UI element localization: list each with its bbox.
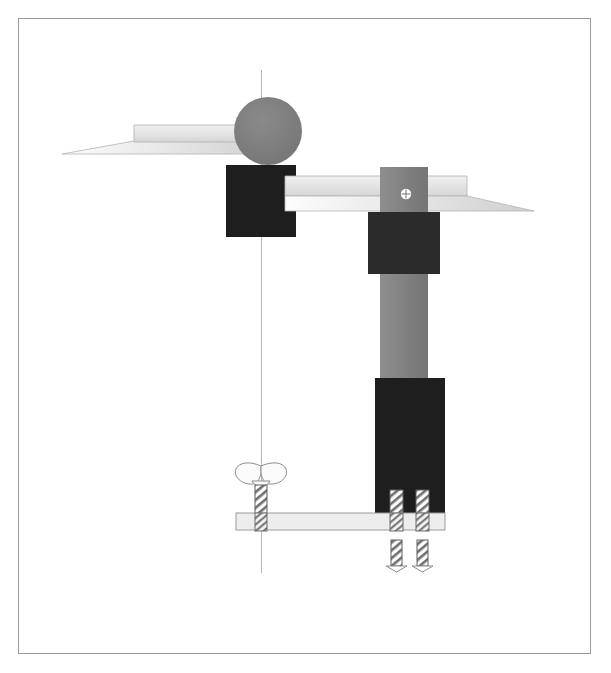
artwork-canvas (0, 0, 611, 673)
phillips-screw-head (401, 189, 411, 199)
composition-svg (0, 0, 611, 673)
artboard (0, 0, 611, 673)
right-blade-body (285, 176, 467, 196)
background (0, 0, 611, 673)
screw-left-through-plate (390, 513, 403, 531)
screw-right-through-plate (416, 513, 429, 531)
upper-dark-block (368, 212, 440, 274)
lower-dark-block (375, 378, 445, 520)
right-column (380, 167, 428, 382)
screw-left-lower-shank (391, 540, 402, 566)
screw-right-lower-shank (417, 540, 428, 566)
gray-circle-head (234, 97, 302, 165)
wing-nut-shaft-through-plate (255, 513, 267, 531)
wing-nut (235, 463, 286, 486)
wing-nut-shaft (255, 485, 267, 514)
